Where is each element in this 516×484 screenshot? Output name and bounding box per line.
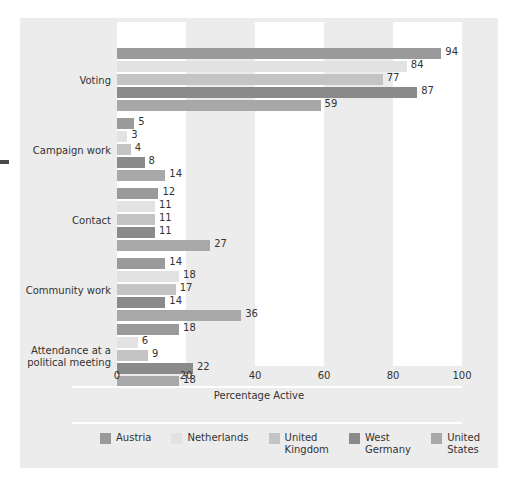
bar-value-label: 6 bbox=[142, 335, 148, 346]
bar[interactable] bbox=[117, 284, 176, 295]
bar-row[interactable]: 18 bbox=[117, 271, 462, 282]
bar-row[interactable]: 3 bbox=[117, 131, 462, 142]
bar[interactable] bbox=[117, 350, 148, 361]
bar-group: Voting9484778759 bbox=[117, 48, 462, 113]
bar-value-label: 84 bbox=[411, 59, 424, 70]
bar-value-label: 4 bbox=[135, 142, 141, 153]
bar[interactable] bbox=[117, 297, 165, 308]
bar-row[interactable]: 14 bbox=[117, 258, 462, 269]
chart-legend: AustriaNetherlandsUnited KingdomWest Ger… bbox=[100, 432, 480, 456]
bar[interactable] bbox=[117, 337, 138, 348]
bar-row[interactable]: 11 bbox=[117, 201, 462, 212]
bar-row[interactable]: 11 bbox=[117, 214, 462, 225]
bar-value-label: 87 bbox=[421, 85, 434, 96]
category-label: Community work bbox=[0, 285, 111, 297]
bar-row[interactable]: 17 bbox=[117, 284, 462, 295]
bar-row[interactable]: 77 bbox=[117, 74, 462, 85]
bar-value-label: 12 bbox=[162, 186, 175, 197]
bar-row[interactable]: 5 bbox=[117, 118, 462, 129]
plot-area: Voting9484778759Campaign work534814Conta… bbox=[117, 22, 462, 366]
legend-item[interactable]: United States bbox=[431, 432, 480, 456]
legend-label: United Kingdom bbox=[285, 432, 329, 456]
bar[interactable] bbox=[117, 227, 155, 238]
bar[interactable] bbox=[117, 201, 155, 212]
bar[interactable] bbox=[117, 87, 417, 98]
bar-value-label: 94 bbox=[445, 46, 458, 57]
bar[interactable] bbox=[117, 48, 441, 59]
legend-item[interactable]: West Germany bbox=[349, 432, 411, 456]
bar-value-label: 36 bbox=[245, 308, 258, 319]
x-axis-tick-label: 60 bbox=[318, 370, 331, 381]
legend-swatch bbox=[269, 433, 280, 444]
legend-label: West Germany bbox=[365, 432, 411, 456]
bar[interactable] bbox=[117, 324, 179, 335]
bar[interactable] bbox=[117, 100, 321, 111]
bar-row[interactable]: 9 bbox=[117, 350, 462, 361]
bar-value-label: 18 bbox=[183, 322, 196, 333]
bar-value-label: 5 bbox=[138, 116, 144, 127]
bar-row[interactable]: 8 bbox=[117, 157, 462, 168]
bar-row[interactable]: 12 bbox=[117, 188, 462, 199]
bar[interactable] bbox=[117, 144, 131, 155]
x-axis-tick-label: 100 bbox=[452, 370, 471, 381]
bar-value-label: 14 bbox=[169, 295, 182, 306]
category-label: Campaign work bbox=[0, 145, 111, 157]
bar-row[interactable]: 87 bbox=[117, 87, 462, 98]
bar[interactable] bbox=[117, 131, 127, 142]
bar-value-label: 77 bbox=[387, 72, 400, 83]
bar-value-label: 8 bbox=[149, 155, 155, 166]
bar[interactable] bbox=[117, 214, 155, 225]
bar[interactable] bbox=[117, 188, 158, 199]
legend-swatch bbox=[431, 433, 442, 444]
bar-value-label: 3 bbox=[131, 129, 137, 140]
bar[interactable] bbox=[117, 310, 241, 321]
legend-separator-rule bbox=[72, 422, 462, 424]
chart-figure: Voting9484778759Campaign work534814Conta… bbox=[20, 18, 498, 468]
bar[interactable] bbox=[117, 170, 165, 181]
bar-row[interactable]: 36 bbox=[117, 310, 462, 321]
bar[interactable] bbox=[117, 61, 407, 72]
bar-value-label: 9 bbox=[152, 348, 158, 359]
category-label: Attendance at a political meeting bbox=[0, 345, 111, 369]
axis-separator-rule bbox=[72, 386, 462, 388]
bar-row[interactable]: 14 bbox=[117, 170, 462, 181]
legend-item[interactable]: Netherlands bbox=[171, 432, 248, 456]
bar-row[interactable]: 4 bbox=[117, 144, 462, 155]
bar-row[interactable]: 84 bbox=[117, 61, 462, 72]
bar-row[interactable]: 6 bbox=[117, 337, 462, 348]
bar[interactable] bbox=[117, 271, 179, 282]
bar-value-label: 11 bbox=[159, 225, 172, 236]
x-axis: 020406080100 bbox=[117, 370, 462, 386]
category-label: Contact bbox=[0, 215, 111, 227]
bar-value-label: 11 bbox=[159, 199, 172, 210]
legend-swatch bbox=[171, 433, 182, 444]
x-axis-tick-label: 20 bbox=[180, 370, 193, 381]
bar-row[interactable]: 18 bbox=[117, 324, 462, 335]
x-axis-tick-label: 40 bbox=[249, 370, 262, 381]
bar[interactable] bbox=[117, 74, 383, 85]
bar-row[interactable]: 11 bbox=[117, 227, 462, 238]
bar-value-label: 17 bbox=[180, 282, 193, 293]
bar[interactable] bbox=[117, 157, 145, 168]
bar-value-label: 14 bbox=[169, 168, 182, 179]
legend-item[interactable]: United Kingdom bbox=[269, 432, 329, 456]
bar-value-label: 59 bbox=[325, 98, 338, 109]
bar-value-label: 11 bbox=[159, 212, 172, 223]
x-axis-tick-label: 0 bbox=[114, 370, 120, 381]
legend-label: United States bbox=[447, 432, 480, 456]
x-axis-tick-label: 80 bbox=[387, 370, 400, 381]
legend-swatch bbox=[349, 433, 360, 444]
bar-value-label: 27 bbox=[214, 238, 227, 249]
bar-row[interactable]: 27 bbox=[117, 240, 462, 251]
bar[interactable] bbox=[117, 240, 210, 251]
category-label: Voting bbox=[0, 75, 111, 87]
bar[interactable] bbox=[117, 258, 165, 269]
bar-group: Community work1418171436 bbox=[117, 258, 462, 323]
bar-row[interactable]: 14 bbox=[117, 297, 462, 308]
bar[interactable] bbox=[117, 118, 134, 129]
legend-item[interactable]: Austria bbox=[100, 432, 151, 456]
bar-value-label: 14 bbox=[169, 256, 182, 267]
bar-group: Campaign work534814 bbox=[117, 118, 462, 183]
bar-row[interactable]: 59 bbox=[117, 100, 462, 111]
bar-row[interactable]: 94 bbox=[117, 48, 462, 59]
